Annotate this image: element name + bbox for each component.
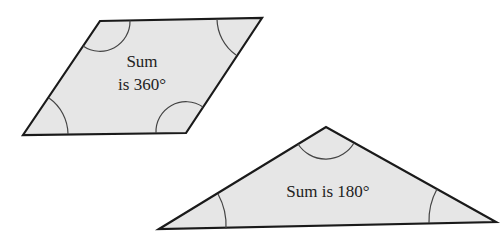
triangle-shape	[159, 127, 496, 229]
parallelogram-label-line2: is 360°	[118, 75, 166, 94]
triangle-label: Sum is 180°	[286, 182, 369, 201]
diagram-canvas: Sum is 360° Sum is 180°	[0, 0, 504, 239]
parallelogram: Sum is 360°	[23, 18, 262, 135]
triangle: Sum is 180°	[159, 127, 496, 229]
parallelogram-label-line1: Sum	[126, 52, 157, 71]
